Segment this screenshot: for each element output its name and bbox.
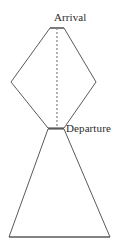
upper-kite-shape (11, 28, 96, 128)
lower-triangle-shape (9, 129, 110, 237)
label-arrival: Arrival (54, 11, 86, 23)
label-departure: Departure (66, 122, 111, 134)
diagram-canvas: Arrival Departure (0, 0, 124, 250)
